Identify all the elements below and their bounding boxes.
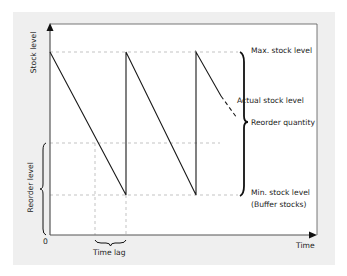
reorder-level-label: Reorder level bbox=[26, 163, 35, 213]
buffer-stocks-label: (Buffer stocks) bbox=[251, 201, 307, 210]
time-lag-label: Time lag bbox=[93, 249, 126, 258]
time-lag-brace-icon bbox=[95, 240, 126, 246]
stock-level-diagram bbox=[0, 0, 347, 276]
max-stock-label: Max. stock level bbox=[251, 47, 312, 56]
reorder-level-brace-icon bbox=[40, 143, 46, 235]
actual-stock-label: Actual stock level bbox=[237, 97, 304, 106]
x-axis-label: Time bbox=[296, 242, 315, 251]
origin-label: 0 bbox=[43, 238, 48, 247]
y-axis-label: Stock level bbox=[29, 28, 38, 78]
reorder-quantity-label: Reorder quantity bbox=[251, 119, 315, 128]
min-stock-label: Min. stock level bbox=[251, 189, 310, 198]
